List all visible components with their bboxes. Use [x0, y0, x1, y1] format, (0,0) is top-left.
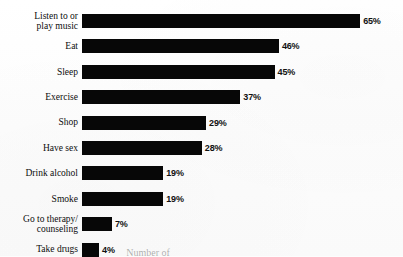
bar: [82, 90, 240, 104]
bar-value-label: 7%: [115, 219, 128, 229]
bar-category-label: Drink alcohol: [2, 168, 78, 179]
bar-category-label: Sleep: [2, 67, 78, 78]
bar: [82, 14, 360, 28]
bar-value-label: 29%: [209, 118, 226, 128]
bar-track: [82, 65, 275, 79]
bar-category-label: Have sex: [2, 143, 78, 154]
bar-track: [82, 217, 112, 231]
bar-category-label: Take drugs: [2, 244, 78, 255]
bar-track: [82, 39, 279, 53]
bar-category-label: Exercise: [2, 92, 78, 103]
bar-row: Go to therapy/ counseling7%: [0, 217, 403, 231]
bar-value-label: 19%: [166, 194, 183, 204]
bar: [82, 192, 163, 206]
bar-row: Have sex28%: [0, 141, 403, 155]
bar-category-label: Go to therapy/ counseling: [2, 214, 78, 235]
bar-track: [82, 192, 163, 206]
bar-category-label: Eat: [2, 41, 78, 52]
bar-row: Exercise37%: [0, 90, 403, 104]
bar-value-label: 65%: [363, 16, 380, 26]
bar-value-label: 28%: [205, 143, 222, 153]
bar-row: Smoke19%: [0, 192, 403, 206]
bar: [82, 166, 163, 180]
bar-track: [82, 90, 240, 104]
bar-value-label: 45%: [278, 67, 295, 77]
bar-value-label: 37%: [243, 92, 260, 102]
bar: [82, 39, 279, 53]
bar-row: Listen to or play music65%: [0, 14, 403, 28]
bar-row: Drink alcohol19%: [0, 166, 403, 180]
cutoff-caption: Number of: [78, 247, 218, 256]
bar-row: Sleep45%: [0, 65, 403, 79]
bar: [82, 217, 112, 231]
bar: [82, 141, 202, 155]
bar-row: Shop29%: [0, 116, 403, 130]
bar-row: Eat46%: [0, 39, 403, 53]
bar-track: [82, 141, 202, 155]
bar-track: [82, 14, 360, 28]
bar-track: [82, 166, 163, 180]
bar-track: [82, 116, 206, 130]
bar: [82, 65, 275, 79]
bar-value-label: 46%: [282, 41, 299, 51]
bar-category-label: Shop: [2, 117, 78, 128]
bar-category-label: Smoke: [2, 194, 78, 205]
bar-category-label: Listen to or play music: [2, 11, 78, 32]
bar-value-label: 19%: [166, 168, 183, 178]
bar: [82, 116, 206, 130]
